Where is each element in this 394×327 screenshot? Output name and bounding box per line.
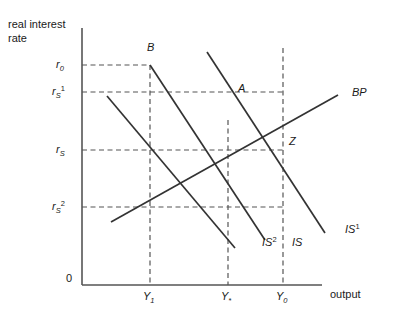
curve-is: [107, 96, 235, 248]
x-tick-label-Y0: Y0: [276, 290, 288, 303]
x-tick-Y1-sub: 1: [150, 296, 154, 305]
y-tick-r0-sub: 0: [60, 64, 64, 73]
point-label-z: Z: [289, 135, 296, 148]
y-axis-title-line1: real interest: [8, 18, 65, 32]
y-tick-rS-sub: S: [60, 149, 65, 158]
curve-label-is2: IS2: [262, 236, 277, 249]
x-axis-title: output: [330, 288, 361, 301]
x-tick-Y0-sub: 0: [283, 296, 287, 305]
point-label-b: B: [147, 41, 154, 54]
diagram-canvas: [0, 0, 394, 327]
x-tick-label-Ystar: Y*: [221, 290, 231, 303]
curve-is2: [150, 65, 265, 240]
point-label-a: A: [238, 82, 245, 95]
is-bp-diagram-figure: real interest rate output 0 r0 rS1 rS rS…: [0, 0, 394, 327]
y-tick-label-rS1: rS1: [52, 85, 65, 98]
y-tick-label-rS2: rS2: [52, 200, 65, 213]
curve-label-is1-sup: 1: [355, 222, 359, 231]
curve-label-is2-sup: 2: [272, 235, 276, 244]
curve-label-bp: BP: [352, 86, 367, 99]
curve-bp: [111, 95, 338, 222]
curve-is1: [207, 52, 325, 233]
y-tick-label-rS: rS: [56, 143, 65, 156]
curve-label-is1-base: IS: [345, 223, 355, 235]
curve-label-is: IS: [292, 236, 302, 249]
y-tick-rS2-sub: S: [56, 206, 61, 215]
curve-label-is1: IS1: [345, 223, 360, 236]
y-tick-rS1-sub: S: [56, 91, 61, 100]
y-axis-title: real interest rate: [8, 18, 65, 46]
origin-label: 0: [66, 272, 72, 285]
x-tick-label-Y1: Y1: [143, 290, 155, 303]
y-tick-label-r0: r0: [56, 58, 64, 71]
y-tick-rS2-sup: 2: [61, 199, 65, 208]
y-tick-rS1-sup: 1: [61, 84, 65, 93]
x-tick-Ystar-sub: *: [228, 296, 231, 305]
y-axis-title-line2: rate: [8, 32, 65, 46]
curve-label-is2-base: IS: [262, 236, 272, 248]
